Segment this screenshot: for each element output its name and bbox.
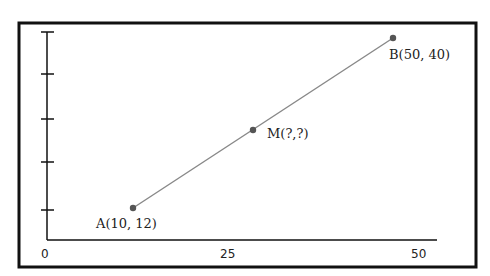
x-tick-label-25: 25	[220, 247, 235, 261]
point-a-label: A(10, 12)	[95, 216, 157, 231]
x-tick-label-50: 50	[411, 247, 426, 261]
point-m-label: M(?,?)	[267, 126, 309, 141]
x-tick-label-0: 0	[41, 247, 49, 261]
point-m	[250, 127, 256, 133]
point-b-label: B(50, 40)	[389, 47, 450, 62]
point-b	[390, 35, 396, 41]
point-a	[130, 205, 136, 211]
coordinate-diagram: 0 25 50 A(10, 12) M(?,?) B(50, 40)	[0, 0, 490, 276]
